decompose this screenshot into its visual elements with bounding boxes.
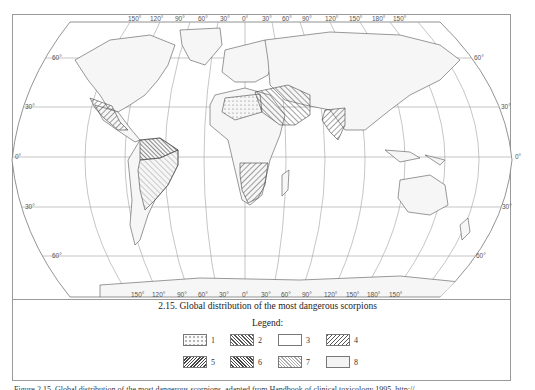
legend-item-6: 6 [230,356,262,368]
svg-text:30°: 30° [219,291,229,298]
svg-text:60°: 60° [198,291,208,298]
legend-item-8: 8 [326,356,358,368]
legend-item-7: 7 [278,356,310,368]
legend-swatch-backslash-hatch-light [278,356,302,368]
world-map: 150° 120° 90° 60° 30° 0° 30° 60° 90° 120… [0,0,535,300]
legend-swatch-slash-hatch [326,334,350,346]
svg-text:30°: 30° [502,203,512,210]
svg-text:0°: 0° [515,153,522,160]
svg-text:120°: 120° [152,291,166,298]
svg-text:30°: 30° [25,203,35,210]
legend-item-4: 4 [326,334,358,346]
svg-text:180°: 180° [367,291,381,298]
legend-item-3: 3 [278,334,310,346]
svg-text:30°: 30° [501,103,511,110]
svg-text:180°: 180° [372,15,386,22]
legend-item-5: 5 [183,356,215,368]
svg-text:30°: 30° [220,15,230,22]
svg-text:30°: 30° [261,291,271,298]
svg-text:60°: 60° [198,15,208,22]
svg-text:150°: 150° [131,291,145,298]
legend-swatch-blank [278,334,302,346]
svg-text:150°: 150° [346,291,360,298]
svg-text:150°: 150° [389,291,403,298]
svg-text:60°: 60° [474,54,484,61]
legend-item-2: 2 [230,334,262,346]
legend: 1 2 3 4 5 6 7 8 [183,334,383,378]
svg-text:90°: 90° [177,291,187,298]
svg-text:60°: 60° [282,15,292,22]
svg-text:0°: 0° [242,291,249,298]
legend-swatch-light-fill [326,356,350,368]
legend-item-1: 1 [183,334,215,346]
svg-text:60°: 60° [52,252,62,259]
svg-text:60°: 60° [52,54,62,61]
svg-text:120°: 120° [325,15,339,22]
legend-swatch-slash-hatch-dense [183,356,207,368]
legend-swatch-dots [183,334,207,346]
svg-text:30°: 30° [25,103,35,110]
svg-text:90°: 90° [175,15,185,22]
legend-swatch-backslash-hatch [230,334,254,346]
svg-text:150°: 150° [393,15,407,22]
legend-swatch-backslash-hatch-dense [230,356,254,368]
svg-text:60°: 60° [281,291,291,298]
svg-text:0°: 0° [15,153,22,160]
svg-text:150°: 150° [128,15,142,22]
top-longitude-labels: 150° 120° 90° 60° 30° 0° 30° 60° 90° 120… [128,15,407,22]
legend-title: Legend: [0,318,535,328]
source-line: Figure 2.15. Global distribution of the … [14,383,534,390]
figure-caption: 2.15. Global distribution of the most da… [0,301,535,311]
svg-text:90°: 90° [302,15,312,22]
svg-text:120°: 120° [150,15,164,22]
svg-text:150°: 150° [349,15,363,22]
caption-divider [12,299,511,300]
svg-text:120°: 120° [324,291,338,298]
svg-text:30°: 30° [262,15,272,22]
svg-text:90°: 90° [302,291,312,298]
svg-text:60°: 60° [476,252,486,259]
svg-text:0°: 0° [242,15,249,22]
